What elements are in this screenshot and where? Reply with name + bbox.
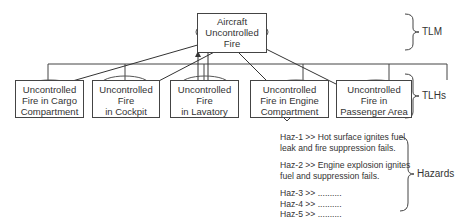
tlm-box-aircraft-uncontrolled-fire: Aircraft Uncontrolled Fire — [197, 13, 267, 53]
tlh-line: Compartment — [251, 106, 328, 117]
tlh-line: Compartment — [16, 106, 83, 117]
tlm-line-2: Uncontrolled — [198, 27, 266, 38]
tlh-line: Fire in Cargo — [16, 95, 83, 106]
tlh-box-lavatory: Uncontrolled Fire in Lavatory — [170, 80, 239, 118]
tlh-line: Uncontrolled — [251, 84, 328, 95]
tlh-line: Uncontrolled — [337, 84, 411, 95]
hazard-5: Haz-5 >> .......... — [280, 209, 450, 220]
tlh-line: Passenger Area — [337, 106, 411, 117]
hazard-1-line-1: Haz-1 >> Hot surface ignites fuel — [280, 132, 405, 142]
tlh-box-cockpit: Uncontrolled Fire in Cockpit — [92, 80, 160, 118]
tlh-box-passenger-area: Uncontrolled Fire in Passenger Area — [336, 80, 412, 118]
tlh-line: in Cockpit — [93, 106, 159, 117]
tlh-box-engine-compartment: Uncontrolled Fire in Engine Compartment — [250, 80, 329, 118]
hazard-2-line-2: fuel and suppression fails. — [280, 171, 379, 181]
hazard-4: Haz-4 >> .......... — [280, 199, 450, 210]
level-label-tlm: TLM — [422, 26, 442, 37]
tlh-line: Fire — [171, 95, 238, 106]
hazard-1-line-2: leak and fire suppression fails. — [280, 143, 396, 153]
tlh-line: Fire — [93, 95, 159, 106]
hazard-1: Haz-1 >> Hot surface ignites fuel leak a… — [280, 132, 450, 153]
hazard-2-line-1: Haz-2 >> Engine explosion ignites — [280, 160, 410, 170]
tlh-line: Fire in Engine — [251, 95, 328, 106]
hazard-3: Haz-3 >> .......... — [280, 188, 450, 199]
tlh-box-cargo-compartment: Uncontrolled Fire in Cargo Compartment — [15, 80, 84, 118]
tlh-line: Uncontrolled — [16, 84, 83, 95]
tlh-line: Uncontrolled — [93, 84, 159, 95]
tlm-line-1: Aircraft — [198, 16, 266, 27]
tlh-line: Uncontrolled — [171, 84, 238, 95]
tlm-line-3: Fire — [198, 38, 266, 49]
tlh-line: in Lavatory — [171, 106, 238, 117]
level-label-hazards: Hazards — [417, 168, 454, 179]
tlh-line: Fire in — [337, 95, 411, 106]
level-label-tlhs: TLHs — [422, 90, 446, 101]
